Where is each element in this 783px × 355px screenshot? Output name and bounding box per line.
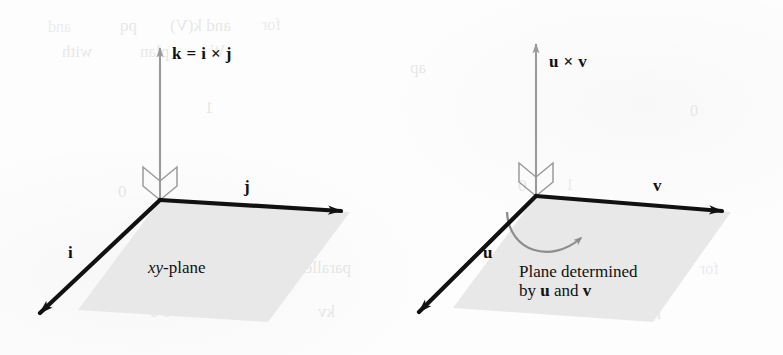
u-vector-label: u bbox=[483, 243, 492, 262]
xy-plane-surface bbox=[78, 200, 350, 322]
uv-plane-surface bbox=[453, 196, 731, 322]
k-equals-i-cross-j-label: k = i × j bbox=[172, 44, 232, 63]
v-vector-label: v bbox=[653, 176, 662, 195]
j-vector-label: j bbox=[244, 177, 250, 196]
plane-desc-v: v bbox=[583, 281, 592, 300]
plane-description-line-2: by u and v bbox=[519, 281, 638, 300]
plane-desc-and: and bbox=[550, 281, 583, 300]
general-vectors-panel: u × v v u Plane determined by u and v bbox=[391, 0, 783, 355]
u-cross-v-label: u × v bbox=[549, 52, 587, 71]
plane-description-line-1: Plane determined bbox=[519, 262, 638, 281]
xy-plane-label: xy-plane bbox=[148, 258, 206, 277]
xy-plane-label-rest: -plane bbox=[163, 258, 205, 277]
plane-desc-by: by bbox=[519, 281, 540, 300]
xy-plane-label-italic-part: xy bbox=[148, 258, 163, 277]
plane-desc-u: u bbox=[540, 281, 549, 300]
standard-basis-panel: k = i × j j i xy-plane bbox=[0, 0, 392, 355]
i-vector-label: i bbox=[68, 243, 73, 262]
figure-root: andpqand k(V)forwithplanWap10001parallel… bbox=[0, 0, 783, 355]
plane-description-label: Plane determined by u and v bbox=[519, 262, 638, 300]
